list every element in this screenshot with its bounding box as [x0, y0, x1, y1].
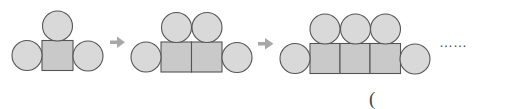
circle-right [73, 41, 103, 71]
figure-2 [131, 13, 252, 73]
circle-top [192, 13, 222, 43]
continuation-ellipsis: …… [439, 34, 467, 50]
figure-3 [280, 14, 430, 74]
arrow-icon [110, 37, 125, 49]
square [42, 41, 73, 71]
circle-right [222, 43, 252, 73]
square [161, 42, 192, 72]
circle-left [280, 44, 310, 74]
circle-top [341, 14, 371, 44]
pattern-diagram: .c { fill: #d9d9d9; stroke: #555555; str… [0, 0, 524, 109]
circle-right [400, 44, 430, 74]
square [370, 44, 401, 74]
circle-top [162, 13, 192, 43]
square [192, 42, 223, 72]
arrow-icon [258, 38, 274, 50]
square [310, 44, 340, 74]
circle-left [12, 41, 42, 71]
circle-top [371, 14, 401, 44]
circle-top [310, 14, 340, 44]
answer-bracket: ( [369, 88, 375, 109]
figure-1 [12, 11, 103, 71]
circle-left [131, 42, 161, 72]
square [340, 44, 370, 74]
circle-top [43, 11, 73, 41]
